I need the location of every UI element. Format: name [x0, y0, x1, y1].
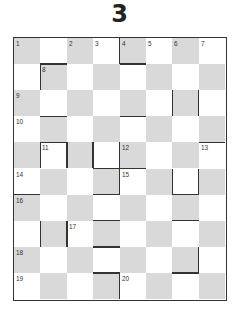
grid-cell[interactable]: [146, 247, 172, 273]
grid-cell[interactable]: [40, 116, 66, 142]
grid-cell[interactable]: [172, 116, 198, 142]
grid-cell[interactable]: [146, 142, 172, 168]
grid-cell[interactable]: [172, 90, 198, 116]
grid-cell[interactable]: [146, 273, 172, 299]
grid-cell[interactable]: [67, 116, 93, 142]
grid-cell[interactable]: 11: [40, 142, 66, 168]
clue-number: 6: [174, 39, 178, 48]
grid-cell[interactable]: 2: [67, 38, 93, 64]
grid-cell[interactable]: 19: [14, 273, 40, 299]
grid-cell[interactable]: [120, 116, 146, 142]
grid-cell[interactable]: [172, 142, 198, 168]
grid-cell[interactable]: [199, 169, 225, 195]
grid-cell[interactable]: [199, 273, 225, 299]
grid-cell[interactable]: [67, 142, 93, 168]
grid-cell[interactable]: 8: [40, 64, 66, 90]
grid-cell[interactable]: [199, 116, 225, 142]
grid-cell[interactable]: [146, 195, 172, 221]
thick-border: [40, 142, 42, 168]
grid-cell[interactable]: [93, 195, 119, 221]
thick-border: [14, 194, 40, 196]
thick-border: [198, 90, 200, 116]
grid-cell[interactable]: [67, 247, 93, 273]
thick-border: [40, 116, 66, 118]
grid-cell[interactable]: 3: [93, 38, 119, 64]
grid-cell[interactable]: 1: [14, 38, 40, 64]
grid-cell[interactable]: [172, 64, 198, 90]
grid-cell[interactable]: 12: [120, 142, 146, 168]
grid-cell[interactable]: [93, 221, 119, 247]
clue-number: 10: [16, 117, 23, 126]
thick-border: [92, 142, 94, 168]
grid-cell[interactable]: 5: [146, 38, 172, 64]
clue-number: 11: [42, 143, 49, 152]
grid-cell[interactable]: [14, 221, 40, 247]
grid-cell[interactable]: [120, 90, 146, 116]
grid-cell[interactable]: 14: [14, 169, 40, 195]
grid-cell[interactable]: [199, 221, 225, 247]
grid-cell[interactable]: [199, 195, 225, 221]
grid-cell[interactable]: [67, 169, 93, 195]
grid-cell[interactable]: [120, 64, 146, 90]
clue-number: 16: [16, 196, 23, 205]
clue-number: 15: [122, 170, 129, 179]
grid-cell[interactable]: 18: [14, 247, 40, 273]
grid-cell[interactable]: [40, 221, 66, 247]
thick-border: [40, 221, 42, 247]
grid-cell[interactable]: [67, 90, 93, 116]
grid-cell[interactable]: [199, 64, 225, 90]
thick-border: [93, 220, 119, 222]
grid-cell[interactable]: [93, 273, 119, 299]
grid-cell[interactable]: [40, 38, 66, 64]
grid-cell[interactable]: [40, 273, 66, 299]
grid-cell[interactable]: [40, 247, 66, 273]
grid-cell[interactable]: 16: [14, 195, 40, 221]
thick-border: [93, 246, 119, 248]
grid-cell[interactable]: [93, 169, 119, 195]
grid-cell[interactable]: 7: [199, 38, 225, 64]
grid-cell[interactable]: [172, 273, 198, 299]
grid-cell[interactable]: [199, 90, 225, 116]
grid-cell[interactable]: 4: [120, 38, 146, 64]
grid-cell[interactable]: [172, 221, 198, 247]
grid-cell[interactable]: [146, 116, 172, 142]
grid-cell[interactable]: [120, 221, 146, 247]
grid-cell[interactable]: 6: [172, 38, 198, 64]
grid-cell[interactable]: [93, 64, 119, 90]
grid-cell[interactable]: [120, 247, 146, 273]
grid-cell[interactable]: 17: [67, 221, 93, 247]
grid-cell[interactable]: [14, 64, 40, 90]
grid-cell[interactable]: [93, 247, 119, 273]
grid-cell[interactable]: [172, 169, 198, 195]
grid-cell[interactable]: [172, 247, 198, 273]
clue-number: 12: [122, 143, 129, 152]
thick-border: [120, 168, 146, 170]
grid-cell[interactable]: [146, 169, 172, 195]
grid-cell[interactable]: 13: [199, 142, 225, 168]
grid-cell[interactable]: [146, 221, 172, 247]
grid-cell[interactable]: [40, 90, 66, 116]
grid-cell[interactable]: [93, 90, 119, 116]
grid-cell[interactable]: [93, 142, 119, 168]
grid-cell[interactable]: [67, 195, 93, 221]
grid-cell[interactable]: [93, 116, 119, 142]
thick-border: [172, 272, 198, 274]
grid-cell[interactable]: [199, 247, 225, 273]
puzzle-title: 3: [0, 0, 239, 28]
grid-cell[interactable]: [146, 64, 172, 90]
clue-number: 8: [42, 65, 46, 74]
grid-cell[interactable]: [14, 142, 40, 168]
grid-cell[interactable]: 15: [120, 169, 146, 195]
thick-border: [119, 169, 121, 195]
thick-border: [119, 142, 121, 168]
grid-cell[interactable]: [67, 64, 93, 90]
grid-cell[interactable]: [40, 195, 66, 221]
grid-cell[interactable]: 20: [120, 273, 146, 299]
grid-cell[interactable]: [120, 195, 146, 221]
grid-cell[interactable]: 10: [14, 116, 40, 142]
grid-cell[interactable]: [146, 90, 172, 116]
grid-cell[interactable]: [40, 169, 66, 195]
grid-cell[interactable]: 9: [14, 90, 40, 116]
grid-cell[interactable]: [172, 195, 198, 221]
grid-cell[interactable]: [67, 273, 93, 299]
